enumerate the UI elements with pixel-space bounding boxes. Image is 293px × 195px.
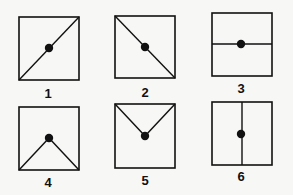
center-dot xyxy=(141,132,149,140)
center-dot xyxy=(141,43,149,51)
diagram-figure: 123456 xyxy=(0,0,293,195)
center-dot xyxy=(237,130,245,138)
panel-2: 2 xyxy=(115,16,175,100)
panel-6: 6 xyxy=(212,102,272,184)
panel-label: 3 xyxy=(237,81,244,96)
panel-label: 5 xyxy=(141,173,148,188)
panel-5: 5 xyxy=(115,104,175,188)
panel-3: 3 xyxy=(212,13,272,96)
center-dot xyxy=(237,40,245,48)
panel-label: 6 xyxy=(237,169,244,184)
panel-4: 4 xyxy=(19,107,79,190)
line-segment xyxy=(145,104,175,136)
panel-label: 2 xyxy=(141,85,148,100)
panel-label: 1 xyxy=(44,86,51,101)
line-segment xyxy=(49,138,79,170)
line-segment xyxy=(115,104,145,136)
panel-1: 1 xyxy=(19,17,79,101)
line-segment xyxy=(19,138,49,170)
panel-label: 4 xyxy=(44,175,52,190)
center-dot xyxy=(45,44,53,52)
center-dot xyxy=(45,134,53,142)
